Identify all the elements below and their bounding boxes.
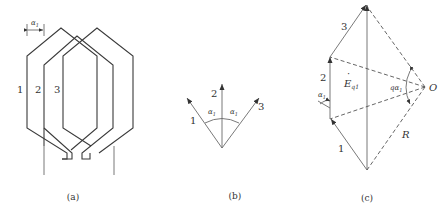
radius-label: R (401, 129, 410, 140)
phasor-label-2: 2 (211, 88, 217, 99)
phasor-label-3: 3 (258, 101, 264, 112)
resultant-dot: · (347, 68, 350, 79)
phasor-3 (330, 5, 366, 57)
radius-bottom (367, 87, 425, 170)
panel-b: 2 1 3 α1 α1 (b) (187, 84, 264, 201)
caption-a: (a) (67, 192, 79, 202)
coil-2-end (44, 128, 72, 159)
figure-canvas: α1 1 2 3 (a) 2 1 3 α1 α1 (b) (0, 0, 445, 220)
center-angle-arc (406, 71, 410, 104)
phasor-label-1: 1 (338, 143, 344, 154)
spacing-label: α1 (31, 19, 39, 28)
phasor-label-3: 3 (341, 21, 347, 32)
caption-c: (c) (361, 193, 373, 203)
coil-3 (63, 28, 133, 153)
angle-extension (318, 101, 330, 108)
center-label: O (429, 82, 437, 93)
coil-2 (44, 36, 113, 159)
coil-label-2: 2 (35, 84, 41, 95)
phasor-label-2: 2 (320, 72, 326, 83)
phasor-label-1: 1 (190, 115, 196, 126)
angle-label-right: α1 (230, 108, 238, 117)
alpha-label: α1 (318, 91, 326, 100)
coil-label-3: 3 (54, 84, 60, 95)
resultant-label: Eq1 (343, 78, 359, 91)
coil-label-1: 1 (17, 84, 23, 95)
radius-1 (330, 87, 425, 119)
phasor-1 (331, 119, 367, 170)
panel-a: α1 1 2 3 (a) (17, 19, 133, 202)
caption-b: (b) (229, 191, 242, 201)
center-angle-label: qα1 (390, 84, 402, 93)
phasor-3 (222, 98, 259, 148)
radius-top (366, 5, 425, 87)
panel-c: 3 2 1 α1 Eq1 · qα1 O R (c) (318, 5, 437, 203)
angle-label-left: α1 (208, 108, 216, 117)
